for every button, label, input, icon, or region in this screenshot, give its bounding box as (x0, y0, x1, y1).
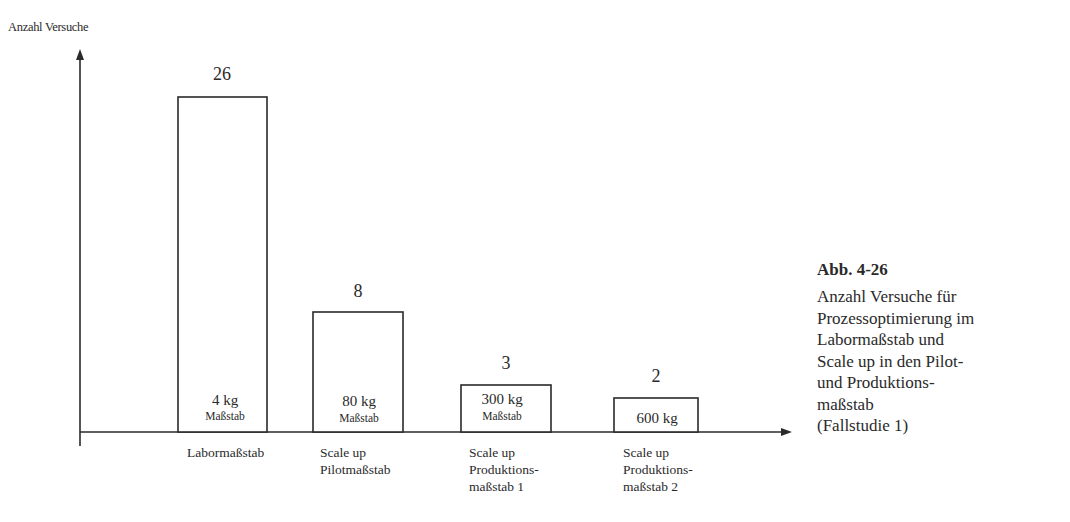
caption-line: maßstab (817, 394, 1057, 416)
y-axis-label: Anzahl Versuche (8, 20, 88, 35)
caption-line: Prozessoptimierung im (817, 308, 1057, 330)
figure-caption: Anzahl Versuche für Prozessoptimierung i… (817, 286, 1057, 437)
category-label: Scale up Produktions- maßstab 2 (623, 444, 693, 495)
bar-scale-sublabel: Maßstab (314, 412, 404, 424)
y-axis-arrow-icon (76, 49, 84, 60)
caption-line: Labormaßstab und (817, 329, 1057, 351)
figure-label: Abb. 4-26 (817, 260, 888, 280)
caption-line: Anzahl Versuche für (817, 286, 1057, 308)
bar-value-label: 2 (611, 366, 701, 387)
bar-scale-label: 300 kg (457, 391, 547, 408)
bar-value-label: 3 (461, 353, 551, 374)
category-label: Scale up Produktions- maßstab 1 (469, 444, 539, 495)
category-label: Labormaßstab (187, 444, 264, 461)
caption-line: (Fallstudie 1) (817, 415, 1057, 437)
category-label: Scale up Pilotmaßstab (320, 444, 391, 478)
bar-value-label: 26 (177, 64, 267, 85)
x-axis-arrow-icon (781, 428, 792, 436)
bar-value-label: 8 (313, 281, 403, 302)
bar-scale-sublabel: Maßstab (457, 410, 547, 422)
bar-scale-label: 80 kg (314, 393, 404, 410)
bar-scale-label: 600 kg (612, 410, 702, 427)
bar-scale-sublabel: Maßstab (180, 410, 270, 422)
bar-scale-label: 4 kg (180, 392, 270, 409)
bar-labormassstab (178, 97, 267, 432)
caption-line: Scale up in den Pilot- (817, 351, 1057, 373)
caption-line: und Produktions- (817, 372, 1057, 394)
